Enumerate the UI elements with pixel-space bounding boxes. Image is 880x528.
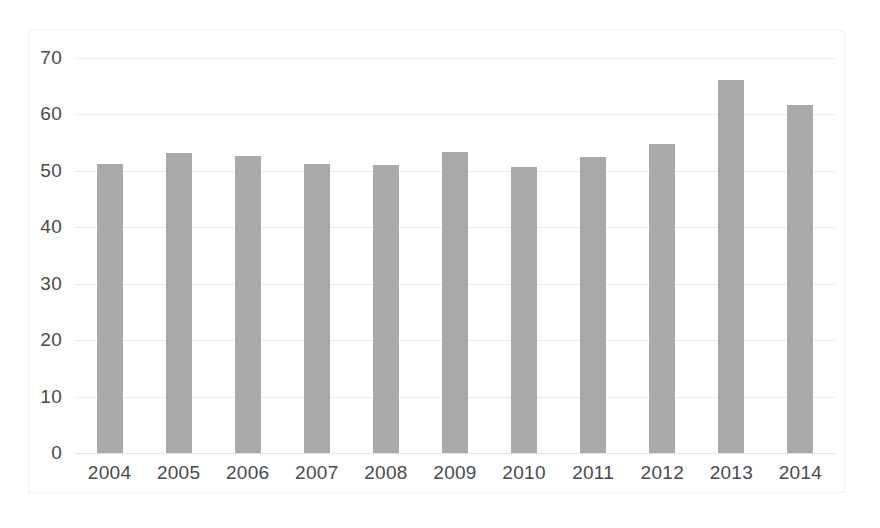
gridline-70 [75, 58, 835, 59]
y-tick-label-10: 10 [40, 386, 62, 408]
y-tick-label-70: 70 [40, 47, 62, 69]
bar-2010 [511, 167, 537, 453]
x-tick-label-2014: 2014 [765, 462, 835, 484]
bar-2009 [442, 152, 468, 453]
x-tick-label-2011: 2011 [558, 462, 628, 484]
bar-2007 [304, 164, 330, 453]
x-tick-label-2005: 2005 [144, 462, 214, 484]
y-tick-label-20: 20 [40, 329, 62, 351]
y-axis-tick-labels: 706050403020100 [0, 58, 62, 453]
x-tick-label-2010: 2010 [489, 462, 559, 484]
y-tick-label-30: 30 [40, 273, 62, 295]
bar-2012 [649, 144, 675, 453]
x-tick-label-2009: 2009 [420, 462, 490, 484]
bar-2006 [235, 156, 261, 453]
x-tick-label-2012: 2012 [627, 462, 697, 484]
x-tick-label-2007: 2007 [282, 462, 352, 484]
bar-2014 [787, 105, 813, 453]
y-tick-label-40: 40 [40, 216, 62, 238]
bar-2004 [97, 164, 123, 453]
y-tick-label-60: 60 [40, 103, 62, 125]
bar-chart: 706050403020100 200420052006200720082009… [0, 0, 880, 528]
x-tick-label-2008: 2008 [351, 462, 421, 484]
gridline-0 [75, 453, 835, 454]
bar-2005 [166, 153, 192, 453]
x-tick-label-2013: 2013 [696, 462, 766, 484]
y-tick-label-50: 50 [40, 160, 62, 182]
plot-area [75, 58, 835, 453]
x-tick-label-2006: 2006 [213, 462, 283, 484]
bar-2011 [580, 157, 606, 453]
y-tick-label-0: 0 [51, 442, 62, 464]
bar-2008 [373, 165, 399, 453]
x-tick-label-2004: 2004 [75, 462, 145, 484]
bar-2013 [718, 80, 744, 453]
